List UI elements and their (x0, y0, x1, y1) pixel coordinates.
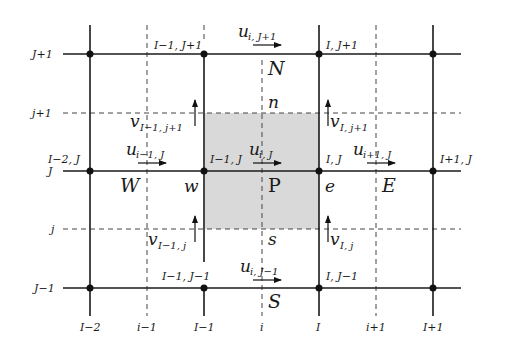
svg-text:i, J+1: i, J+1 (248, 31, 276, 42)
staggered-grid-diagram: J+1 j+1 J j J−1 I−2 i−1 I−1 i I i+1 I+1 … (0, 0, 506, 354)
compass-label-s: s (268, 229, 277, 249)
compass-label-n: n (268, 92, 279, 112)
row-label-j: j (48, 223, 55, 236)
row-label-J-plus-1: J+1 (30, 48, 53, 61)
node-label-Im1-J: I−1, J (209, 153, 243, 166)
col-label-i-minus-1: i−1 (137, 321, 157, 334)
col-label-i-plus-1: i+1 (366, 321, 386, 334)
row-label-j-plus-1: j+1 (29, 107, 52, 120)
svg-text:v: v (330, 229, 340, 249)
velocity-label-u-im1-J: u i−1, J (126, 139, 165, 160)
velocity-label-u-ip1-J: u i+1, J (353, 139, 392, 160)
col-label-I-plus-1: I+1 (422, 321, 444, 334)
col-label-I: I (315, 321, 321, 334)
row-label-J-minus-1: J−1 (32, 282, 55, 295)
col-label-i: i (260, 321, 264, 334)
node-label-Im1-Jp1: I−1, J+1 (153, 39, 202, 52)
svg-text:v: v (148, 229, 158, 249)
node-label-I-Jp1: I, J+1 (325, 39, 358, 52)
row-label-J: J (46, 165, 53, 178)
col-label-I-minus-2: I−2 (79, 321, 101, 334)
compass-label-W: W (120, 174, 141, 196)
svg-text:I, j+1: I, j+1 (339, 122, 368, 133)
node-label-Ip1-J: I+1, J (439, 153, 473, 166)
velocity-label-v-Im1-j: v I−1, j (148, 229, 186, 251)
node-label-Im1-Jm1: I−1, J−1 (161, 270, 210, 283)
compass-label-E: E (381, 174, 396, 196)
compass-label-w: w (184, 176, 199, 196)
svg-text:i+1, J: i+1, J (363, 149, 392, 160)
svg-text:v: v (130, 111, 140, 131)
node-label-I-Jm1: I, J−1 (325, 270, 358, 283)
velocity-label-v-I-jp1: v I, j+1 (330, 111, 368, 133)
compass-label-P: P (268, 174, 281, 196)
svg-text:I−1, j: I−1, j (157, 240, 186, 251)
node-label-Im2-J: I−2, J (47, 153, 81, 166)
velocity-label-v-I-j: v I, j (330, 229, 353, 251)
svg-text:I, j: I, j (339, 240, 353, 251)
svg-text:i−1, J: i−1, J (136, 149, 165, 160)
svg-text:i, J−1: i, J−1 (250, 266, 278, 277)
svg-text:v: v (330, 111, 340, 131)
velocity-label-v-Im1-jp1: v I−1, j+1 (130, 111, 183, 133)
node-label-I-J: I, J (325, 153, 342, 166)
velocity-label-u-i-Jp1: u i, J+1 (238, 21, 276, 42)
compass-label-e: e (325, 176, 335, 196)
compass-label-N: N (267, 57, 286, 79)
svg-text:i, J: i, J (259, 149, 274, 160)
compass-label-S: S (268, 290, 281, 312)
col-label-I-minus-1: I−1 (193, 321, 215, 334)
svg-text:I−1, j+1: I−1, j+1 (139, 122, 183, 133)
velocity-label-u-i-Jm1: u i, J−1 (240, 256, 278, 277)
